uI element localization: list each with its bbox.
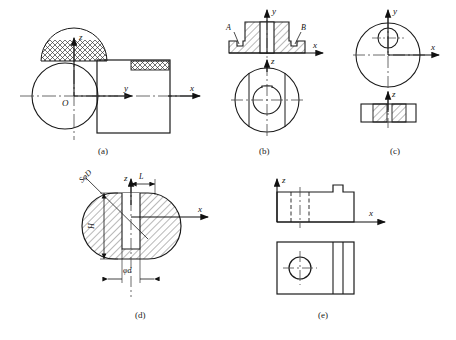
axis-label-z: z [123, 173, 128, 183]
axis-label-z: z [391, 89, 396, 99]
panel-e-front-view [277, 185, 354, 222]
origin-label: O [62, 98, 69, 108]
axis-label-x: x [368, 208, 373, 218]
axis-label-z: z [270, 56, 275, 66]
marker-label-a: A [225, 23, 231, 32]
axis-label-x: x [189, 83, 194, 93]
panel-a-circular-view [32, 27, 110, 129]
caption-e: (e) [318, 310, 328, 320]
panel-a: z y O x [0, 0, 228, 150]
caption-c: (c) [390, 146, 400, 156]
axis-label-y: y [392, 6, 397, 16]
caption-a: (a) [98, 146, 108, 156]
axis-label-y: y [123, 83, 128, 93]
panel-c: y x z [335, 0, 456, 150]
axis-label-x: x [197, 204, 202, 214]
dim-label-length: L [138, 172, 144, 181]
axis-label-z: z [281, 175, 286, 185]
axis-label-x: x [312, 40, 317, 50]
marker-label-b: B [301, 23, 306, 32]
front-outline [277, 185, 354, 222]
panel-b: A B y x z [205, 0, 330, 150]
panel-d: SφD H L φd z x [60, 165, 240, 305]
rect-hatched-strip [131, 61, 169, 70]
caption-d: (d) [135, 310, 146, 320]
hatched-cell-right [392, 104, 406, 122]
panel-e: z x [255, 165, 400, 305]
dim-label-sphere-diameter: SφD [77, 168, 94, 185]
axis-label-z: z [78, 32, 83, 42]
axis-label-y: y [271, 6, 276, 16]
axis-label-x: x [430, 42, 435, 52]
caption-b: (b) [259, 146, 270, 156]
hatched-cell-left [373, 104, 387, 122]
